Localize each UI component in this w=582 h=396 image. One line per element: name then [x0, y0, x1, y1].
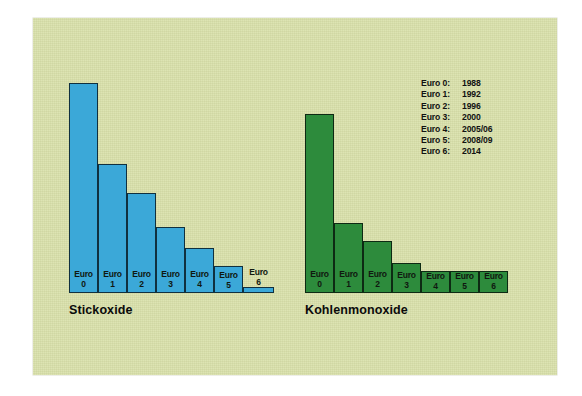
bar-label: Euro 5 [219, 271, 238, 292]
bar-label-line1: Euro [397, 270, 416, 280]
plot-area-stickoxide: Euro 0 Euro 1 Euro 2 Euro 3 [69, 78, 274, 293]
bar-label-line1: Euro [455, 271, 474, 281]
bar-label-line2: 5 [462, 281, 467, 291]
bar-nox-euro-5: Euro 5 [214, 266, 243, 293]
bar-label-line2: 0 [81, 279, 86, 289]
bar-label: Euro 6 [484, 272, 503, 292]
chart-title-kohlenmonoxide: Kohlenmonoxide [305, 303, 408, 317]
bar-label-line2: 1 [110, 279, 115, 289]
bar-label-line1: Euro [74, 269, 93, 279]
bar-label: Euro 1 [339, 270, 358, 292]
bar-label-line2: 4 [197, 279, 202, 289]
bar-label: Euro 1 [103, 270, 122, 292]
bar-label: Euro 4 [426, 272, 445, 292]
bar-label-line2: 5 [226, 280, 231, 290]
bar-label: Euro 4 [190, 270, 209, 292]
bar-co-euro-4: Euro 4 [421, 271, 450, 293]
bar-label-line1: Euro [219, 270, 238, 280]
bar-label-line2: 6 [491, 281, 496, 291]
bar-label-line1: Euro [368, 269, 387, 279]
bar-label-line2: 6 [256, 277, 261, 287]
bar-label-line1: Euro [161, 269, 180, 279]
bar-label-line1: Euro [249, 267, 268, 277]
bar-label-line1: Euro [484, 271, 503, 281]
bar-label-line1: Euro [103, 269, 122, 279]
bar-label: Euro 3 [397, 271, 416, 292]
bar-label-line1: Euro [339, 269, 358, 279]
bar-label: Euro 0 [310, 270, 329, 292]
bar-label: Euro 0 [74, 270, 93, 292]
chart-title-stickoxide: Stickoxide [69, 303, 133, 317]
bar-label-line1: Euro [190, 269, 209, 279]
bar-label: Euro 2 [132, 270, 151, 292]
bar-label-line2: 3 [404, 280, 409, 290]
poster-panel: Euro 0: 1988 Euro 1: 1992 Euro 2: 1996 E… [33, 18, 557, 375]
bar-label-line2: 0 [317, 279, 322, 289]
chart-kohlenmonoxide: Euro 0 Euro 1 Euro 2 Euro 3 [305, 78, 505, 293]
bar-label: Euro 3 [161, 270, 180, 292]
chart-stickoxide: Euro 0 Euro 1 Euro 2 Euro 3 [69, 78, 274, 293]
bar-co-euro-2: Euro 2 [363, 241, 392, 293]
bar-co-euro-0: Euro 0 [305, 114, 334, 293]
bar-nox-euro-3: Euro 3 [156, 227, 185, 293]
bar-label: Euro 6 [249, 268, 268, 288]
bar-label-line2: 2 [139, 279, 144, 289]
bar-label-line1: Euro [132, 269, 151, 279]
bar-nox-euro-1: Euro 1 [98, 164, 127, 293]
bar-nox-euro-0: Euro 0 [69, 83, 98, 293]
bar-label-line2: 3 [168, 279, 173, 289]
bar-nox-euro-2: Euro 2 [127, 193, 156, 293]
bar-co-euro-1: Euro 1 [334, 223, 363, 293]
bar-nox-euro-4: Euro 4 [185, 248, 214, 293]
plot-area-kohlenmonoxide: Euro 0 Euro 1 Euro 2 Euro 3 [305, 78, 505, 293]
bar-co-euro-6: Euro 6 [479, 271, 508, 293]
bar-label-line2: 2 [375, 279, 380, 289]
bar-label: Euro 5 [455, 272, 474, 292]
bar-label-line2: 1 [346, 279, 351, 289]
bar-co-euro-3: Euro 3 [392, 263, 421, 293]
bar-co-euro-5: Euro 5 [450, 271, 479, 293]
bar-label-line2: 4 [433, 281, 438, 291]
bar-nox-euro-6: Euro 6 [243, 287, 274, 293]
bar-label-line1: Euro [426, 271, 445, 281]
bar-label: Euro 2 [368, 270, 387, 292]
bar-label-line1: Euro [310, 269, 329, 279]
